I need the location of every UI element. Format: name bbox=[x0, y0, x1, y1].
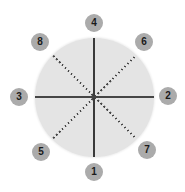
number-node-4[interactable]: 4 bbox=[85, 14, 103, 32]
number-node-5[interactable]: 5 bbox=[32, 143, 50, 161]
number-node-2[interactable]: 2 bbox=[159, 87, 177, 105]
number-node-7[interactable]: 7 bbox=[138, 141, 156, 159]
number-node-8[interactable]: 8 bbox=[31, 33, 49, 51]
number-node-1[interactable]: 1 bbox=[85, 163, 103, 181]
number-node-6[interactable]: 6 bbox=[135, 33, 153, 51]
numbered-sector-diagram: 1 2 3 4 5 6 7 8 bbox=[0, 0, 185, 192]
number-node-3[interactable]: 3 bbox=[10, 88, 28, 106]
divided-circle bbox=[35, 38, 154, 157]
